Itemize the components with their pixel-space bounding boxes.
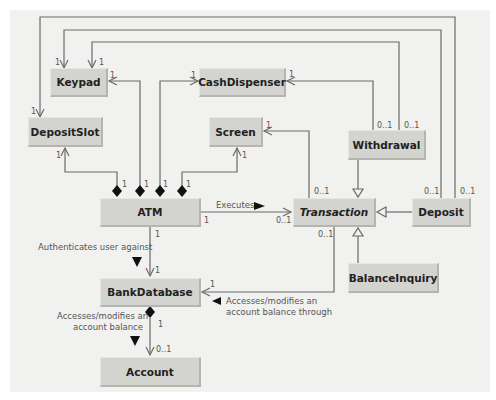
label-executes: Executes: [216, 200, 254, 211]
mult-deposit-keypad: 0..1: [424, 187, 439, 196]
mult-bankdatabase-atm: 1: [155, 266, 160, 275]
mult-atm-executes: 1: [204, 216, 209, 225]
class-transaction[interactable]: Transaction: [293, 198, 376, 227]
atm-to-depositslot-line: [65, 148, 117, 192]
mult-atm-authenticates: 1: [155, 230, 160, 239]
atm-to-cashdispenser-line: [160, 81, 198, 192]
mult-withdrawal-cashdispenser: 0..1: [377, 121, 392, 130]
deposit-to-depositslot-line: [40, 17, 455, 198]
mult-atm-screen: 1: [186, 180, 191, 189]
mult-keypad-deposit: 1: [55, 58, 60, 67]
mult-bankdatabase-account: 1: [158, 320, 163, 329]
transaction-to-bankdatabase-line: [202, 226, 334, 292]
mult-depositslot-deposit: 1: [31, 107, 36, 116]
class-deposit[interactable]: Deposit: [412, 198, 471, 227]
composition-diamond-depositslot: [112, 185, 122, 197]
label-accesses-tx-line2: account balance through: [226, 307, 332, 318]
accesses-db-direction-icon: [130, 336, 140, 346]
class-cashdispenser[interactable]: CashDispenser: [199, 68, 286, 97]
mult-deposit-depositslot: 0..1: [460, 187, 475, 196]
label-accesses-db-line2: account balance: [57, 322, 143, 333]
mult-keypad-atm: 1: [110, 71, 115, 80]
label-accesses-db-line1: Accesses/modifies an: [57, 311, 143, 322]
mult-transaction-executes: 0..1: [276, 216, 291, 225]
generalization-triangle-withdrawal: [353, 189, 363, 197]
label-authenticates: Authenticates user against: [38, 242, 152, 253]
mult-withdrawal-keypad: 0..1: [404, 121, 419, 130]
mult-cashdispenser-withdrawal: 1: [289, 70, 294, 79]
mult-cashdispenser-atm: 1: [191, 71, 196, 80]
mult-account: 0..1: [156, 345, 171, 354]
class-account[interactable]: Account: [100, 357, 201, 387]
deposit-to-keypad-line: [64, 30, 441, 198]
generalization-triangle-deposit: [377, 207, 386, 217]
mult-screen-transaction: 1: [266, 121, 271, 130]
mult-atm-cashdispenser: 1: [163, 180, 168, 189]
mult-atm-depositslot: 1: [122, 180, 127, 189]
mult-transaction-bankdatabase: 0..1: [318, 230, 333, 239]
atm-to-keypad-line: [109, 81, 140, 192]
class-screen[interactable]: Screen: [209, 117, 263, 147]
mult-screen-atm: 1: [242, 151, 247, 160]
executes-direction-icon: [254, 202, 265, 210]
transaction-to-screen-line: [264, 131, 309, 198]
label-accesses-tx-line1: Accesses/modifies an: [226, 296, 317, 307]
mult-atm-keypad: 1: [144, 180, 149, 189]
class-withdrawal[interactable]: Withdrawal: [348, 130, 426, 160]
accesses-tx-direction-icon: [212, 297, 221, 305]
class-bankdatabase[interactable]: BankDatabase: [100, 278, 201, 307]
mult-bankdatabase-transaction: 1: [210, 280, 215, 289]
authenticates-direction-icon: [132, 257, 142, 267]
mult-transaction-screen: 0..1: [314, 187, 329, 196]
mult-keypad-withdrawal: 1: [99, 58, 104, 67]
generalization-triangle-balanceinquiry: [353, 228, 363, 236]
withdrawal-to-cashdispenser-line: [287, 81, 373, 130]
class-atm[interactable]: ATM: [100, 198, 201, 227]
mult-depositslot-atm: 1: [56, 151, 61, 160]
class-depositslot[interactable]: DepositSlot: [28, 117, 103, 147]
class-keypad[interactable]: Keypad: [50, 68, 108, 97]
class-balanceinquiry[interactable]: BalanceInquiry: [348, 263, 439, 293]
